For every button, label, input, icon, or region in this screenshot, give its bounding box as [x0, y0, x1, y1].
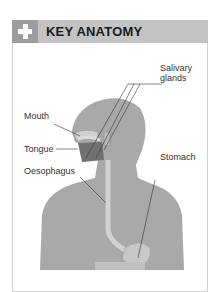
label-mouth: Mouth — [24, 111, 49, 121]
label-salivary-line2: glands — [160, 73, 192, 83]
label-stomach: Stomach — [160, 152, 196, 162]
intestine-area — [95, 262, 145, 270]
oral-cavity — [78, 142, 104, 162]
label-salivary-line1: Salivary — [160, 63, 192, 73]
body-silhouette — [40, 98, 184, 270]
label-salivary-glands: Salivary glands — [160, 63, 192, 83]
label-oesophagus: Oesophagus — [24, 166, 75, 176]
label-tongue: Tongue — [24, 144, 54, 154]
